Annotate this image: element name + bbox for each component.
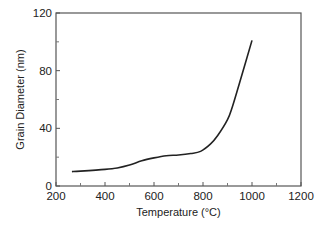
line-chart: 20040060080010001200 04080120 Temperatur… [0, 0, 325, 228]
x-tick-label: 1200 [288, 190, 314, 202]
x-tick-label: 400 [95, 190, 114, 202]
plot-frame [56, 13, 301, 186]
x-tick-label: 800 [193, 190, 212, 202]
grain-diameter-line [72, 40, 252, 171]
x-axis: 20040060080010001200 [46, 182, 313, 202]
plot-border [56, 13, 301, 186]
y-tick-label: 40 [39, 122, 52, 134]
y-tick-label: 80 [39, 65, 52, 77]
x-tick-label: 600 [144, 190, 163, 202]
y-tick-label: 120 [33, 7, 52, 19]
data-series [72, 40, 252, 171]
x-tick-label: 1000 [239, 190, 265, 202]
y-tick-label: 0 [46, 180, 52, 192]
x-axis-label: Temperature (°C) [136, 206, 220, 218]
y-axis-label: Grain Diameter (nm) [14, 49, 26, 149]
